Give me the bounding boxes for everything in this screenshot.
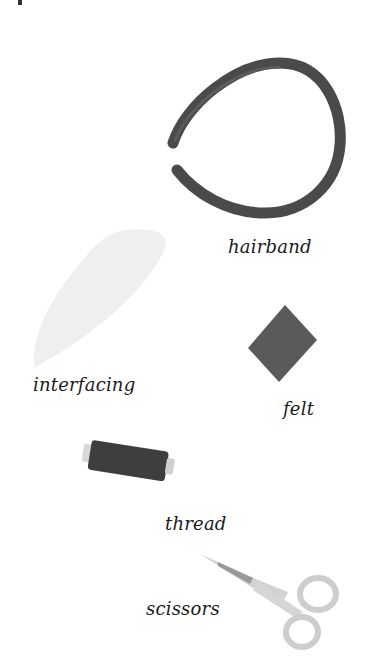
- materials-page: hairband interfacing felt thread scissor…: [0, 0, 378, 668]
- scissors-illustration: [198, 552, 348, 652]
- interfacing-illustration: [25, 225, 175, 370]
- hairband-illustration: [165, 55, 350, 220]
- felt-label: felt: [283, 398, 314, 419]
- hairband-label: hairband: [228, 236, 312, 257]
- scissors-label: scissors: [146, 598, 220, 619]
- thread-label: thread: [165, 513, 227, 534]
- felt-illustration: [245, 302, 320, 384]
- interfacing-label: interfacing: [33, 374, 135, 395]
- cropped-text-fragment: [18, 0, 22, 5]
- thread-illustration: [80, 437, 180, 487]
